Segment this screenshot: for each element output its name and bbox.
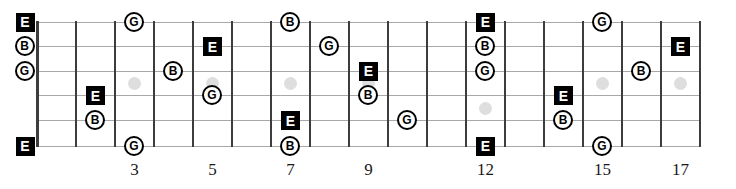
fret-wire-17 [699,21,701,147]
note-marker-g: G [124,12,144,32]
note-marker-g: G [319,36,339,56]
note-marker-g: G [475,61,495,81]
fret-number-label-3: 3 [130,161,139,178]
note-marker-g: G [124,136,144,156]
inlay-dot-fret-12 [479,102,492,115]
note-marker-g: G [592,136,612,156]
note-marker-g: G [397,110,417,130]
note-marker-g: G [202,85,222,105]
fret-wire-2 [114,21,116,147]
fret-number-label-7: 7 [286,161,295,178]
fret-wire-13 [543,21,545,147]
note-marker-e: E [476,137,495,156]
inlay-dot-fret-7 [284,77,297,90]
note-marker-e: E [359,62,378,81]
inlay-dot-fret-17 [674,77,687,90]
note-marker-b: B [475,36,495,56]
note-marker-e: E [86,86,105,105]
fret-number-label-9: 9 [364,161,373,178]
note-marker-g: G [15,61,35,81]
fret-wire-16 [660,21,662,147]
note-marker-b: B [553,110,573,130]
fret-number-label-15: 15 [594,161,611,178]
note-marker-b: B [280,136,300,156]
nut-line [36,21,39,147]
fret-number-label-12: 12 [477,161,494,178]
inlay-dot-fret-15 [596,77,609,90]
fret-wire-11 [465,21,467,147]
note-marker-e: E [16,137,35,156]
note-marker-e: E [476,13,495,32]
fretboard-diagram: EGBEGBEGBEGBEGBEGBEBEGBEGBEG 3579121517 [0,0,736,189]
note-marker-b: B [163,61,183,81]
fret-wire-6 [270,21,272,147]
fret-wire-14 [582,21,584,147]
note-marker-e: E [671,37,690,56]
note-marker-e: E [554,86,573,105]
note-marker-e: E [281,111,300,130]
fret-wire-1 [75,21,77,147]
note-marker-g: G [592,12,612,32]
fret-wire-7 [309,21,311,147]
fret-wire-5 [231,21,233,147]
string-line-2 [37,46,700,47]
note-marker-b: B [15,36,35,56]
fret-wire-15 [621,21,623,147]
fret-wire-8 [348,21,350,147]
fret-wire-4 [192,21,194,147]
note-marker-e: E [203,37,222,56]
fret-number-label-17: 17 [672,161,689,178]
fret-number-label-5: 5 [208,161,217,178]
fret-wire-9 [387,21,389,147]
inlay-dot-fret-3 [128,77,141,90]
note-marker-b: B [280,12,300,32]
string-line-5 [37,120,700,121]
note-marker-b: B [85,110,105,130]
fret-wire-12 [504,21,506,147]
note-marker-e: E [16,13,35,32]
note-marker-b: B [358,85,378,105]
note-marker-b: B [631,61,651,81]
fret-wire-10 [426,21,428,147]
fret-wire-3 [153,21,155,147]
